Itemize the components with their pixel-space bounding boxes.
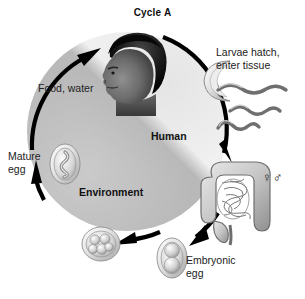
cycle-arrows: [0, 0, 305, 299]
morula-egg-icon: [80, 223, 122, 265]
arc-environment-to-human: [32, 58, 84, 150]
label-human: Human: [151, 130, 187, 142]
label-larvae-hatch: Larvae hatch, enter tissue: [216, 46, 280, 71]
label-food-water: Food, water: [38, 82, 93, 94]
label-embryonic-egg: Embryonic egg: [186, 254, 236, 279]
arrowhead-food-water: [77, 48, 101, 66]
life-cycle-figure: Cycle A: [0, 0, 305, 299]
larvae-icon: [214, 78, 305, 146]
label-sex-symbols: ♀♂: [262, 170, 284, 185]
label-environment: Environment: [79, 186, 143, 198]
intestine-icon: [200, 155, 282, 247]
label-mature-egg: Mature egg: [8, 150, 41, 175]
mature-egg-icon: [48, 142, 82, 186]
embryonic-egg-icon: [155, 236, 189, 280]
